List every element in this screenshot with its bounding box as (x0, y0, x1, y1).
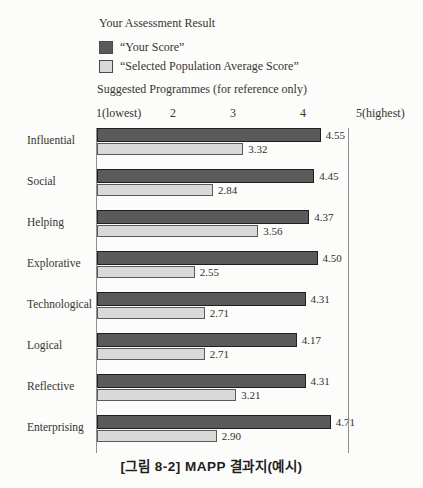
average-score-swatch-icon (99, 60, 113, 73)
your-score-bar-row: 4.31 (97, 374, 330, 388)
bar-value-label: 4.45 (319, 170, 338, 182)
your-score-bar-row: 4.37 (97, 210, 334, 224)
bar-your-score (97, 333, 297, 347)
average-score-bar-row: 2.84 (97, 184, 237, 196)
your-score-swatch-icon (99, 41, 113, 54)
category-label: Social (27, 175, 56, 187)
figure: Your Assessment Result “Your Score” “Sel… (0, 0, 423, 488)
bar-value-label: 4.31 (311, 375, 330, 387)
bar-your-score (97, 169, 314, 183)
bar-your-score (97, 374, 306, 388)
your-score-bar-row: 4.71 (97, 415, 355, 429)
bar-value-label: 4.71 (336, 416, 355, 428)
category-label: Technological (27, 298, 92, 310)
bar-value-label: 3.21 (241, 389, 260, 401)
axis-tick-4: 4 (300, 106, 306, 121)
bar-value-label: 4.50 (323, 252, 342, 264)
your-score-bar-row: 4.55 (97, 128, 345, 142)
category-label: Explorative (27, 257, 81, 269)
average-score-bar-row: 3.32 (97, 143, 267, 155)
axis-tick-2: 2 (170, 106, 176, 121)
bar-your-score (97, 251, 318, 265)
average-score-bar-row: 3.21 (97, 389, 260, 401)
bar-value-label: 2.90 (222, 430, 241, 442)
chart-title: Your Assessment Result (99, 16, 215, 31)
bar-your-score (97, 415, 331, 429)
figure-caption: [그림 8-2] MAPP 결과지(예시) (0, 455, 423, 475)
bar-value-label: 2.84 (218, 184, 237, 196)
your-score-bar-row: 4.45 (97, 169, 339, 183)
bar-average-score (97, 225, 258, 237)
average-score-bar-row: 3.56 (97, 225, 283, 237)
category-label: Reflective (27, 380, 74, 392)
bar-value-label: 2.55 (200, 266, 219, 278)
bar-value-label: 2.71 (210, 307, 229, 319)
your-score-bar-row: 4.31 (97, 292, 330, 306)
your-score-bar-row: 4.17 (97, 333, 321, 347)
legend-item-your-score: “Your Score” (99, 40, 184, 55)
bar-average-score (97, 348, 205, 360)
bar-average-score (97, 184, 213, 196)
category-label: Enterprising (27, 421, 84, 433)
legend-item-average-score: “Selected Population Average Score” (99, 59, 299, 74)
bar-value-label: 3.56 (263, 225, 282, 237)
chart-subtitle: Suggested Programmes (for reference only… (97, 82, 307, 97)
bar-value-label: 4.31 (311, 293, 330, 305)
your-score-bar-row: 4.50 (97, 251, 342, 265)
average-score-bar-row: 2.90 (97, 430, 241, 442)
bar-your-score (97, 210, 309, 224)
average-score-bar-row: 2.71 (97, 348, 229, 360)
average-score-bar-row: 2.71 (97, 307, 229, 319)
axis-tick-3: 3 (230, 106, 236, 121)
category-label: Helping (27, 216, 64, 228)
bar-your-score (97, 292, 306, 306)
bar-your-score (97, 128, 321, 142)
axis-tick-5-highest: 5(highest) (356, 106, 405, 121)
bar-value-label: 4.17 (302, 334, 321, 346)
bar-value-label: 4.37 (314, 211, 333, 223)
bar-average-score (97, 266, 195, 278)
bar-value-label: 3.32 (248, 143, 267, 155)
bar-average-score (97, 430, 217, 442)
bar-value-label: 2.71 (210, 348, 229, 360)
average-score-bar-row: 2.55 (97, 266, 219, 278)
plot-area: 4.553.324.452.844.373.564.502.554.312.71… (96, 128, 349, 453)
bar-average-score (97, 307, 205, 319)
bar-average-score (97, 389, 236, 401)
legend-label-your-score: “Your Score” (120, 40, 184, 55)
axis-right-line (348, 128, 349, 453)
legend-label-average-score: “Selected Population Average Score” (120, 59, 299, 74)
bar-value-label: 4.55 (326, 129, 345, 141)
bar-average-score (97, 143, 243, 155)
category-label: Logical (27, 339, 62, 351)
category-label: Influential (27, 134, 75, 146)
axis-tick-1-lowest: 1(lowest) (96, 106, 141, 121)
